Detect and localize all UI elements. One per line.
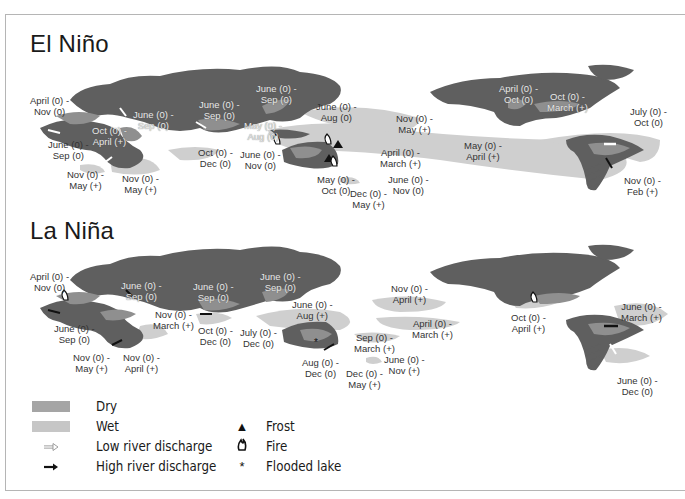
wet-swatch-icon	[32, 421, 70, 432]
map-label: Nov (0) -May (+)	[396, 114, 433, 135]
legend-label: Frost	[266, 418, 295, 434]
map-label: Dec (0) -May (+)	[350, 189, 387, 210]
map-label: Dec (0) -May (+)	[346, 369, 383, 390]
legend-item-wet: Wet	[32, 416, 124, 436]
map-label: June (0) -Nov (0)	[240, 150, 281, 171]
legend-item-fire: Fire	[232, 436, 292, 456]
legend-item-frost: ▲ Frost	[232, 416, 301, 436]
legend-label: Fire	[266, 438, 287, 454]
flooded-lake-icon: *	[232, 459, 252, 474]
map-label: Sep (0) -March (+)	[354, 333, 395, 354]
map-label: July (0) -Oct (0)	[630, 107, 667, 128]
map-label: June (0) -Sep (0)	[54, 324, 95, 345]
map-label: April (0) -March (+)	[412, 319, 453, 340]
legend-label: Low river discharge	[96, 438, 212, 454]
map-label: Oct (0) -March (+)	[547, 92, 588, 113]
map-label: Nov (0) -May (+)	[67, 170, 104, 191]
panel-title-el-nino: El Niño	[30, 30, 109, 58]
fire-icon	[232, 438, 252, 454]
map-label: Nov (0) -May (+)	[73, 353, 110, 374]
map-label: Oct (0) -Dec (0)	[198, 148, 233, 169]
map-label: June (0) -Aug (+)	[292, 300, 333, 321]
map-label: Oct (0) -Dec (0)	[198, 326, 233, 347]
legend-item-high-river-discharge: High river discharge	[32, 456, 243, 476]
high-discharge-arrow-icon	[32, 459, 70, 474]
map-label: Aug (0) -Dec (0)	[302, 358, 339, 379]
legend-item-flooded-lake: * Flooded lake	[232, 456, 358, 476]
legend: Dry Wet Low river discharge High river d…	[30, 396, 430, 481]
map-label: June (0) -March (+)	[621, 302, 662, 323]
map-label: Nov (0) -April (+)	[123, 353, 160, 374]
dry-swatch-icon	[32, 401, 70, 412]
map-label: June (0) -Nov (0)	[388, 175, 429, 196]
map-label: Nov (0) -May (+)	[122, 174, 159, 195]
map-label: Oct (0) -April (+)	[511, 313, 546, 334]
map-label: June (0) -Sep (0)	[260, 272, 301, 293]
legend-label: Flooded lake	[266, 458, 341, 474]
map-label: April (0) -Nov (0)	[30, 96, 69, 117]
map-label: June (0) -Sep (0)	[199, 100, 240, 121]
map-label: June (0) -Sep (0)	[193, 282, 234, 303]
low-discharge-arrow-icon	[32, 439, 70, 454]
map-label: Nov (0) -March (+)	[153, 310, 194, 331]
map-label: June (0) -Dec (0)	[617, 376, 658, 397]
map-label: April (0) -Nov (0)	[30, 272, 69, 293]
legend-label: Wet	[96, 418, 119, 434]
map-label: April (0) -March (+)	[380, 148, 421, 169]
map-label: June (0) -Aug (0)	[316, 102, 357, 123]
legend-label: Dry	[96, 398, 117, 414]
map-label: Oct (0) -April (+)	[92, 126, 127, 147]
frost-icon: ▲	[232, 419, 252, 434]
map-label: May (0) -Aug (0)	[244, 121, 282, 142]
map-label: Nov (0) -Feb (+)	[624, 176, 661, 197]
legend-item-dry: Dry	[32, 396, 122, 416]
map-label: June (0) -Sep (0)	[133, 110, 174, 131]
flooded-lake-icon: *	[314, 337, 318, 348]
legend-item-low-river-discharge: Low river discharge	[32, 436, 238, 456]
map-label: April (0) -Oct (0)	[499, 84, 538, 105]
map-label: June (0) -Sep (0)	[121, 281, 162, 302]
map-label: June (0) -Nov (+)	[384, 355, 425, 376]
map-label: Nov (0) -April (+)	[391, 284, 428, 305]
map-label: July (0) -Dec (0)	[240, 328, 277, 349]
legend-label: High river discharge	[96, 458, 216, 474]
map-label: June (0) -Sep (0)	[256, 84, 297, 105]
map-label: June (0) -Sep (0)	[48, 140, 89, 161]
map-label: May (0) -April (+)	[464, 141, 502, 162]
